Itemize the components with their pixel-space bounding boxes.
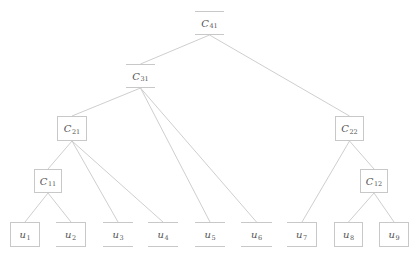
node-subscript: 41 <box>209 22 217 30</box>
node-subscript: 12 <box>374 180 382 188</box>
edge-c21-u4 <box>72 141 163 222</box>
node-label: C <box>64 123 72 134</box>
node-subscript: 22 <box>349 128 357 136</box>
node-label: u <box>343 229 349 240</box>
node-u8: u8 <box>334 222 363 247</box>
edge-c31-u5 <box>141 88 211 222</box>
node-u5: u5 <box>195 222 225 247</box>
edge-c21-c11 <box>48 141 72 169</box>
edge-c12-u9 <box>374 193 394 222</box>
edge-c21-u3 <box>72 141 118 222</box>
edge-c31-u6 <box>141 88 257 222</box>
node-subscript: 11 <box>48 180 56 188</box>
edge-c31-c21 <box>72 88 141 116</box>
node-label: u <box>388 229 394 240</box>
node-subscript: 6 <box>258 234 262 242</box>
node-c12: C12 <box>360 169 388 193</box>
edge-c11-u2 <box>48 193 71 222</box>
node-label: C <box>201 18 209 29</box>
node-subscript: 3 <box>119 234 123 242</box>
node-label: u <box>251 229 257 240</box>
node-label: C <box>132 71 140 82</box>
node-subscript: 1 <box>26 234 30 242</box>
node-c31: C31 <box>126 64 155 88</box>
node-u7: u7 <box>287 222 317 247</box>
node-c11: C11 <box>34 169 62 193</box>
node-u6: u6 <box>241 222 272 247</box>
node-u3: u3 <box>103 222 133 247</box>
node-subscript: 4 <box>164 234 168 242</box>
node-c21: C21 <box>57 116 87 141</box>
node-u9: u9 <box>379 222 409 247</box>
edge-c22-u7 <box>302 141 350 222</box>
node-label: u <box>204 229 210 240</box>
node-label: u <box>296 229 302 240</box>
node-label: C <box>366 176 374 187</box>
node-label: u <box>65 229 71 240</box>
edge-c41-c22 <box>210 35 350 116</box>
node-label: C <box>40 176 48 187</box>
node-u1: u1 <box>10 222 40 247</box>
node-c41: C41 <box>195 11 224 35</box>
node-label: u <box>19 229 25 240</box>
node-subscript: 21 <box>72 128 80 136</box>
node-subscript: 5 <box>211 234 215 242</box>
node-label: C <box>341 123 349 134</box>
edge-c22-c12 <box>350 141 375 169</box>
node-subscript: 31 <box>140 75 148 83</box>
edge-c41-c31 <box>141 35 210 64</box>
node-subscript: 7 <box>303 234 307 242</box>
node-subscript: 2 <box>72 234 76 242</box>
edge-c11-u1 <box>25 193 48 222</box>
edge-c12-u8 <box>349 193 375 222</box>
node-u2: u2 <box>56 222 86 247</box>
node-subscript: 8 <box>350 234 354 242</box>
node-c22: C22 <box>335 116 364 141</box>
node-u4: u4 <box>148 222 178 247</box>
node-label: u <box>157 229 163 240</box>
node-subscript: 9 <box>395 234 399 242</box>
node-label: u <box>112 229 118 240</box>
